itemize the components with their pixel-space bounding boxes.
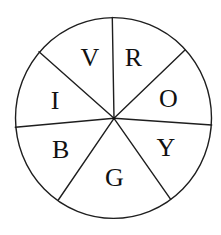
spoke-6 [15,118,114,127]
segment-label-green: G [105,163,124,192]
segment-label-red: R [125,43,143,72]
color-wheel-diagram: R O Y G B I V [0,0,221,235]
segment-label-blue: B [52,135,69,164]
spoke-3 [114,118,212,125]
segment-label-orange: O [159,84,178,113]
segment-label-indigo: I [51,86,60,115]
segment-label-yellow: Y [157,133,176,162]
center-point [113,117,116,120]
segment-label-violet: V [81,43,100,72]
spoke-1 [112,18,114,119]
